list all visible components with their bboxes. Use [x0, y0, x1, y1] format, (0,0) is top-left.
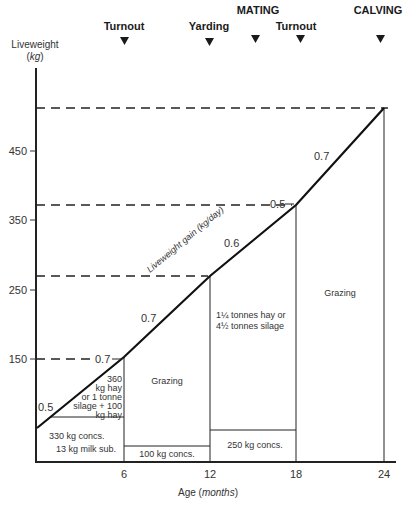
event-label-calving: CALVING [354, 4, 403, 16]
y-tick-350: 350 [9, 214, 27, 226]
liveweight-gain-label: Liveweight gain (kg/day) [145, 204, 226, 274]
svg-text:330 kg concs.: 330 kg concs. [49, 431, 105, 441]
event-triangle-mating [251, 35, 260, 43]
rate-12-18: 0.6 [224, 237, 239, 249]
x-tick-24: 24 [378, 468, 390, 480]
rate-at-18: 0.5 [270, 198, 285, 210]
rate-0-6: 0.5 [38, 401, 53, 413]
feeding-0-6-lower: 330 kg concs. 13 kg milk sub. [49, 431, 116, 454]
y-ticks: 450 350 250 150 [9, 145, 36, 365]
svg-text:kg hay: kg hay [95, 410, 122, 420]
x-tick-6: 6 [121, 468, 127, 480]
rate-18-24: 0.7 [314, 150, 329, 162]
event-triangle-yarding [205, 38, 214, 46]
y-axis-label: Liveweight [11, 39, 58, 50]
period-dividers [124, 108, 384, 462]
feeding-6-12-lower: 100 kg concs. [139, 449, 195, 459]
y-axis-unit: (kg) [26, 51, 43, 62]
x-axis-label: Age (months) [178, 487, 238, 498]
event-label-turnout-2: Turnout [276, 20, 317, 32]
event-label-mating: MATING [237, 4, 280, 16]
y-tick-150: 150 [9, 353, 27, 365]
y-tick-450: 450 [9, 145, 27, 157]
liveweight-chart: Turnout Yarding MATING Turnout CALVING L… [0, 0, 403, 505]
svg-text:4½ tonnes silage: 4½ tonnes silage [216, 321, 284, 331]
x-tick-18: 18 [290, 468, 302, 480]
dashed-reference-lines [36, 108, 388, 359]
feeding-12-18-lower: 250 kg concs. [227, 440, 283, 450]
event-triangle-turnout-1 [120, 37, 129, 45]
event-label-turnout-1: Turnout [104, 20, 145, 32]
y-tick-250: 250 [9, 284, 27, 296]
rate-6-12: 0.7 [141, 312, 156, 324]
event-label-yarding: Yarding [189, 20, 229, 32]
feeding-0-6-upper: 360 kg hay or 1 tonne silage + 100 kg ha… [73, 374, 122, 420]
feeding-6-12-upper: Grazing [151, 376, 183, 386]
rate-at-6: 0.7 [95, 353, 110, 365]
svg-text:13 kg milk sub.: 13 kg milk sub. [56, 444, 116, 454]
event-markers: Turnout Yarding MATING Turnout CALVING [104, 4, 403, 46]
x-ticks: 6 12 18 24 [121, 468, 390, 480]
feeding-12-18-upper: 1¼ tonnes hay or 4½ tonnes silage [216, 310, 286, 331]
event-triangle-turnout-2 [296, 35, 305, 43]
event-triangle-calving [376, 35, 385, 43]
svg-text:1¼ tonnes hay or: 1¼ tonnes hay or [216, 310, 286, 320]
growth-rate-labels: 0.5 0.7 0.7 0.6 0.5 0.7 [38, 150, 329, 413]
x-tick-12: 12 [204, 468, 216, 480]
feeding-18-24: Grazing [324, 288, 356, 298]
